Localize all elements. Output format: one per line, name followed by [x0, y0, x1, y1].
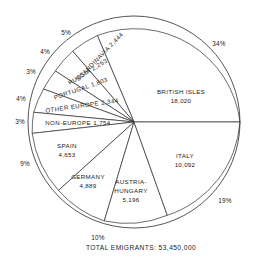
label-germany-value: 4,889	[80, 182, 97, 189]
label-spain-name: SPAIN	[57, 142, 77, 149]
label-italy-name: ITALY	[176, 152, 194, 159]
label-spain-value: 4,653	[59, 151, 76, 158]
label-italy-value: 10,092	[175, 161, 196, 168]
percent-non-europe: 3%	[15, 118, 25, 125]
percent-italy: 19%	[218, 197, 232, 204]
label-non-europe: NON-EUROPE 1,754	[45, 119, 111, 126]
percent-austria-hungary: 10%	[91, 234, 105, 241]
label-germany-name: GERMANY	[71, 173, 105, 180]
percent-other-europe: 4%	[16, 95, 26, 102]
total-emigrants-caption: TOTAL EMIGRANTS: 53,450,000	[86, 244, 196, 251]
label-austria-hungary-line1: AUSTRIA-	[115, 178, 147, 185]
percent-russia: 4%	[40, 48, 50, 55]
pie-chart-svg: BRITISH ISLES 18,020 ITALY 10,092 AUSTRI…	[0, 0, 253, 259]
label-british-isles-value: 18,020	[171, 97, 192, 104]
percent-spain: 9%	[20, 160, 30, 167]
percent-portugal: 3%	[26, 68, 36, 75]
label-british-isles-name: BRITISH ISLES	[157, 88, 205, 95]
label-austria-hungary-value: 5,196	[123, 196, 140, 203]
pie-chart-figure: BRITISH ISLES 18,020 ITALY 10,092 AUSTRI…	[0, 0, 253, 259]
percent-british-isles: 34%	[212, 40, 226, 47]
label-austria-hungary-line2: HUNGARY	[114, 187, 147, 194]
percent-scandinavia: 5%	[61, 29, 71, 36]
